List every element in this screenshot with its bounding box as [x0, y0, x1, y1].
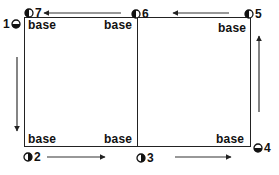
arrows-layer: [0, 0, 279, 175]
